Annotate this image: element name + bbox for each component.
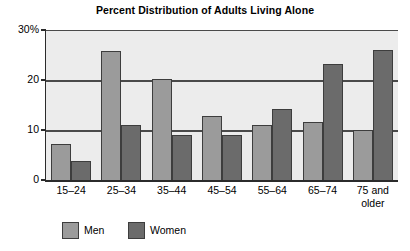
legend-swatch-men [62,222,79,239]
legend-item-men[interactable]: Men [62,220,104,240]
y-tick-mark-0 [41,179,46,181]
bar-men-0 [51,144,71,182]
legend-label-women: Women [150,224,186,237]
bar-men-2 [152,79,172,181]
gridline-10 [46,130,398,132]
plot-inner [46,31,398,181]
x-tick-label-4: 55–64 [247,184,297,197]
x-tick-label-5: 65–74 [297,184,347,197]
bar-women-5 [323,64,343,181]
plot-area [46,30,398,181]
bar-chart: Percent Distribution of Adults Living Al… [0,0,410,251]
y-tick-mark-30 [41,29,46,31]
y-tick-label-0: 0 [3,174,39,185]
bar-men-4 [252,125,272,182]
legend-swatch-women [128,222,145,239]
y-tick-label-20: 20 [3,74,39,85]
x-tick-label-6: 75 and older [348,184,398,209]
x-tick-label-0: 15–24 [46,184,96,197]
bar-women-2 [172,135,192,181]
y-tick-label-30: 30% [3,24,39,35]
x-tick-label-3: 45–54 [197,184,247,197]
bar-women-1 [121,125,141,182]
bar-men-1 [101,51,121,181]
chart-legend: MenWomen [0,220,410,246]
x-tick-label-2: 35–44 [147,184,197,197]
y-tick-mark-20 [41,79,46,81]
gridline-20 [46,80,398,82]
x-tick-label-1: 25–34 [96,184,146,197]
chart-title: Percent Distribution of Adults Living Al… [0,4,410,17]
legend-item-women[interactable]: Women [128,220,186,240]
bar-women-3 [222,135,242,181]
legend-label-men: Men [84,224,104,237]
bar-men-6 [353,130,373,182]
x-axis-line [46,180,398,182]
y-tick-label-10: 10 [3,124,39,135]
bar-men-3 [202,116,222,181]
bar-women-0 [71,161,91,181]
bar-women-6 [373,50,393,181]
bar-women-4 [272,109,292,182]
bar-men-5 [303,122,323,182]
y-tick-mark-10 [41,129,46,131]
